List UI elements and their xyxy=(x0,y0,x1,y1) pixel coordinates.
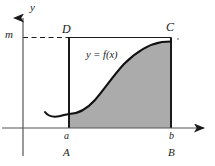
corner-label-d: D xyxy=(62,23,71,35)
corner-label-b-upper: B xyxy=(168,147,175,158)
shaded-area-under-curve xyxy=(69,42,171,129)
figure-container: y m D C y = f(x) a A b B xyxy=(0,0,215,166)
x-tick-label-b: b xyxy=(169,131,174,141)
curve-equation-label: y = f(x) xyxy=(86,50,118,61)
y-tick-label-m: m xyxy=(5,29,13,40)
corner-label-a-upper: A xyxy=(63,147,70,158)
corner-dot-marker xyxy=(177,38,179,40)
y-axis-label: y xyxy=(30,2,35,13)
x-tick-label-a: a xyxy=(64,131,69,141)
calculus-area-figure xyxy=(0,0,215,166)
corner-label-c: C xyxy=(166,21,174,33)
